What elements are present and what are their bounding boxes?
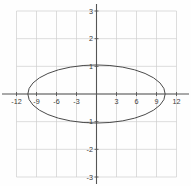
x-axis-tick-labels: -12-9-6-336912: [11, 97, 180, 106]
y-tick-label: -1: [87, 117, 93, 126]
y-tick-label: 3: [89, 7, 93, 16]
y-tick-label: -2: [87, 145, 93, 154]
plot-area: -12-9-6-336912 321-1-2-3: [0, 0, 191, 186]
x-tick-label: -3: [73, 97, 79, 106]
x-tick-label: 3: [115, 97, 119, 106]
y-tick-label: 1: [89, 62, 93, 71]
y-tick-label: 2: [89, 34, 93, 43]
x-tick-label: 12: [173, 97, 181, 106]
x-tick-label: -12: [11, 97, 21, 106]
ellipse-graph-figure: -12-9-6-336912 321-1-2-3: [0, 0, 191, 186]
x-tick-label: -9: [33, 97, 39, 106]
axes: [2, 4, 189, 184]
x-tick-label: -6: [53, 97, 59, 106]
x-tick-label: 9: [155, 97, 159, 106]
x-tick-label: 6: [135, 97, 139, 106]
y-tick-label: -3: [87, 173, 93, 182]
